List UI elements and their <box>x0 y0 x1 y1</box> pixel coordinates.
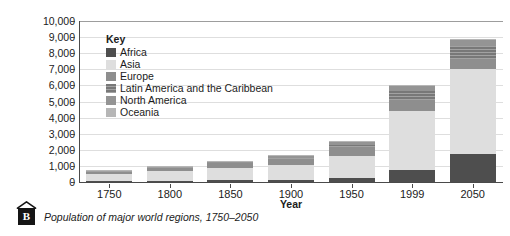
bar-segment[interactable] <box>207 161 253 162</box>
legend-swatch-icon <box>106 96 116 105</box>
bar-segment[interactable] <box>329 141 375 142</box>
legend-item-label: North America <box>120 95 187 107</box>
bar-segment[interactable] <box>450 154 496 182</box>
legend-item[interactable]: Latin America and the Caribbean <box>106 83 296 95</box>
bar-segment[interactable] <box>389 100 435 112</box>
figure-badge: B <box>18 208 35 225</box>
bar-segment[interactable] <box>389 170 435 182</box>
legend-item[interactable]: Asia <box>106 59 296 71</box>
bar-segment[interactable] <box>450 69 496 153</box>
stacked-bar[interactable] <box>86 171 132 182</box>
bar-segment[interactable] <box>207 163 253 167</box>
bar-segment[interactable] <box>147 166 193 167</box>
y-axis-tick-mark <box>71 118 75 119</box>
y-axis-tick-label: 1,000 <box>3 161 75 172</box>
legend-item[interactable]: Oceania <box>106 107 296 119</box>
bar-segment[interactable] <box>450 59 496 69</box>
legend-item[interactable]: North America <box>106 95 296 107</box>
bar-segment[interactable] <box>329 178 375 182</box>
bar-segment[interactable] <box>268 158 314 159</box>
y-axis-tick-mark <box>71 182 75 183</box>
gridline <box>79 21 503 22</box>
y-axis-tick-label: 6,000 <box>3 80 75 91</box>
y-axis-tick-label: 7,000 <box>3 64 75 75</box>
bar-segment[interactable] <box>329 156 375 178</box>
legend-title: Key <box>106 33 296 45</box>
stacked-bar[interactable] <box>450 39 496 182</box>
stacked-bar[interactable] <box>389 85 435 182</box>
legend-swatch-icon <box>106 84 116 93</box>
badge-letter: B <box>18 208 35 225</box>
legend-item[interactable]: Europe <box>106 71 296 83</box>
bar-segment[interactable] <box>86 172 132 174</box>
legend-swatch-icon <box>106 108 116 117</box>
bar-segment[interactable] <box>207 180 253 182</box>
legend-item-label: Latin America and the Caribbean <box>120 83 273 95</box>
bar-segment[interactable] <box>207 168 253 181</box>
bar-segment[interactable] <box>450 39 496 40</box>
legend-item-label: Africa <box>120 47 147 59</box>
bar-segment[interactable] <box>268 159 314 165</box>
gridline <box>79 150 503 151</box>
y-axis-tick-mark <box>71 85 75 86</box>
bar-segment[interactable] <box>86 170 132 171</box>
bar-segment[interactable] <box>450 46 496 59</box>
bar-segment[interactable] <box>268 156 314 157</box>
bar-segment[interactable] <box>450 40 496 46</box>
y-axis-tick-mark <box>71 166 75 167</box>
y-axis-tick-label: 2,000 <box>3 145 75 156</box>
bar-segment[interactable] <box>389 86 435 91</box>
y-axis-line <box>79 21 80 183</box>
y-axis-tick-mark <box>71 53 75 54</box>
legend-item-label: Asia <box>120 59 140 71</box>
legend-swatch-icon <box>106 60 116 69</box>
bar-segment[interactable] <box>389 85 435 86</box>
bar-segment[interactable] <box>147 171 193 181</box>
stacked-bar[interactable] <box>207 162 253 182</box>
gridline <box>79 134 503 135</box>
bar-segment[interactable] <box>389 91 435 99</box>
legend-item-list: AfricaAsiaEuropeLatin America and the Ca… <box>106 47 296 119</box>
bar-segment[interactable] <box>268 165 314 180</box>
y-axis-tick-label: 5,000 <box>3 97 75 108</box>
y-axis-tick-labels: 10,0009,0008,0007,0006,0005,0004,0003,00… <box>0 21 75 183</box>
legend-item-label: Europe <box>120 71 154 83</box>
bar-segment[interactable] <box>268 180 314 182</box>
y-axis-tick-label: 3,000 <box>3 129 75 140</box>
stacked-bar[interactable] <box>329 141 375 182</box>
bar-segment[interactable] <box>329 147 375 156</box>
bar-segment[interactable] <box>329 142 375 145</box>
y-axis-tick-label: 9,000 <box>3 32 75 43</box>
chart-legend: Key AfricaAsiaEuropeLatin America and th… <box>106 33 296 119</box>
stacked-bar[interactable] <box>147 167 193 182</box>
legend-swatch-icon <box>106 48 116 57</box>
y-axis-tick-mark <box>71 150 75 151</box>
y-axis-tick-label: 10,000 <box>3 16 75 27</box>
x-axis-line <box>79 182 503 183</box>
y-axis-tick-mark <box>71 134 75 135</box>
stacked-bar[interactable] <box>268 156 314 182</box>
figure-container: Population (thousands) 10,0009,0008,0007… <box>0 0 510 236</box>
legend-item-label: Oceania <box>120 107 159 119</box>
y-axis-tick-mark <box>71 102 75 103</box>
bar-segment[interactable] <box>329 145 375 148</box>
figure-caption-row: B Population of major world regions, 175… <box>18 208 258 225</box>
legend-item[interactable]: Africa <box>106 47 296 59</box>
y-axis-tick-mark <box>71 69 75 70</box>
bar-segment[interactable] <box>389 111 435 169</box>
y-axis-tick-label: 8,000 <box>3 48 75 59</box>
bar-segment[interactable] <box>147 181 193 182</box>
figure-caption-text: Population of major world regions, 1750–… <box>44 211 258 223</box>
y-axis-tick-mark <box>71 21 75 22</box>
legend-swatch-icon <box>106 72 116 81</box>
y-axis-tick-mark <box>71 37 75 38</box>
y-axis-tick-label: 0 <box>3 177 75 188</box>
bar-segment[interactable] <box>268 155 314 156</box>
y-axis-tick-label: 4,000 <box>3 113 75 124</box>
bar-segment[interactable] <box>147 168 193 171</box>
bar-segment[interactable] <box>86 174 132 181</box>
